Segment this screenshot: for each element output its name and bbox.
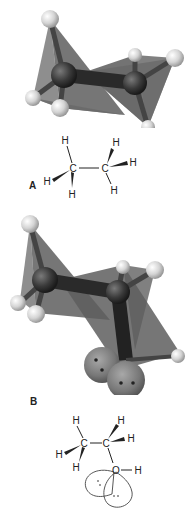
hydrogen-atom: [146, 261, 164, 279]
atom-c1: C: [69, 163, 76, 174]
panel-a-3d-model: [0, 0, 193, 128]
atom-o: O: [112, 465, 120, 476]
hydrogen-atom: [166, 49, 184, 67]
ethanol-3d-model-illustration: [0, 210, 193, 395]
carbon-atom: [106, 280, 130, 304]
atom-h: H: [61, 135, 68, 146]
hydrogen-atom: [21, 215, 39, 233]
ethane-3d-model-illustration: [0, 0, 193, 128]
panel-b-3d-model: [0, 210, 193, 395]
hydrogen-atom: [10, 295, 26, 311]
atom-h: H: [110, 185, 117, 196]
atom-h: H: [72, 415, 79, 426]
hydrogen-atom: [128, 48, 142, 62]
carbon-atom: [32, 267, 58, 293]
carbon-atom: [51, 62, 77, 88]
hydrogen-atom: [116, 260, 130, 274]
carbon-atom: [123, 71, 147, 95]
hydrogen-atom: [41, 10, 59, 28]
atom-c2: C: [102, 438, 109, 449]
atom-h: H: [112, 137, 119, 148]
hydrogen-atom: [51, 99, 69, 117]
panel-label-a: A: [29, 180, 36, 191]
atom-h: H: [43, 176, 50, 187]
ethanol-structural-formula: C C O H H H H H H: [0, 414, 193, 514]
atom-h: H: [129, 157, 136, 168]
atom-h: H: [117, 415, 124, 426]
panel-label-b: B: [30, 396, 37, 407]
atom-c2: C: [101, 163, 108, 174]
atom-h: H: [134, 465, 141, 476]
atom-h: H: [72, 462, 79, 473]
panel-b-structure: C C O H H H H H H: [0, 414, 193, 514]
hydrogen-atom: [27, 305, 45, 323]
atom-h: H: [68, 189, 75, 200]
lone-pair-orbital: [85, 470, 114, 496]
hydrogen-atom: [171, 349, 185, 363]
hydrogen-atom: [25, 90, 41, 106]
lone-pair-orbital: [104, 472, 132, 507]
atom-h: H: [127, 433, 134, 444]
atom-c1: C: [80, 438, 87, 449]
atom-h: H: [55, 449, 62, 460]
